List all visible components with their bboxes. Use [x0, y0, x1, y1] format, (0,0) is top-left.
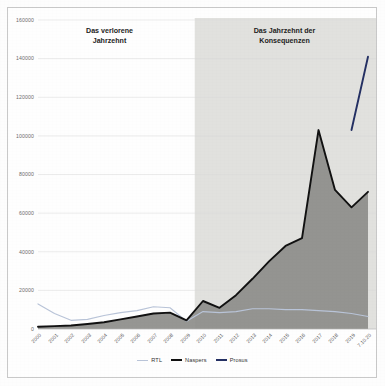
y-tick-label: 0 — [0, 326, 34, 332]
chart-figure: 0200004000060000800001000001200001400001… — [0, 0, 385, 386]
legend-item-naspers[interactable]: Naspers — [171, 357, 207, 363]
legend-item-rtl[interactable]: RTL — [137, 357, 162, 363]
band-label-left: Das verlorene Jahrzehnt — [52, 27, 167, 46]
y-tick-label: 120000 — [0, 94, 34, 100]
chart-plot-area — [0, 0, 385, 386]
legend-swatch-rtl — [137, 360, 148, 361]
legend-label-rtl: RTL — [151, 357, 162, 363]
y-tick-label: 60000 — [0, 210, 34, 216]
legend-label-prosus: Prosus — [230, 357, 248, 363]
y-tick-label: 160000 — [0, 17, 34, 23]
y-tick-label: 40000 — [0, 249, 34, 255]
band-label-right: Das Jahrzehnt der Konsequenzen — [222, 27, 347, 46]
y-tick-label: 100000 — [0, 133, 34, 139]
chart-legend: RTLNaspersProsus — [0, 357, 385, 363]
legend-item-prosus[interactable]: Prosus — [216, 357, 248, 363]
y-tick-label: 80000 — [0, 171, 34, 177]
y-tick-label: 140000 — [0, 55, 34, 61]
legend-swatch-prosus — [216, 359, 227, 361]
legend-swatch-naspers — [171, 359, 182, 361]
legend-label-naspers: Naspers — [185, 357, 207, 363]
y-tick-label: 20000 — [0, 287, 34, 293]
